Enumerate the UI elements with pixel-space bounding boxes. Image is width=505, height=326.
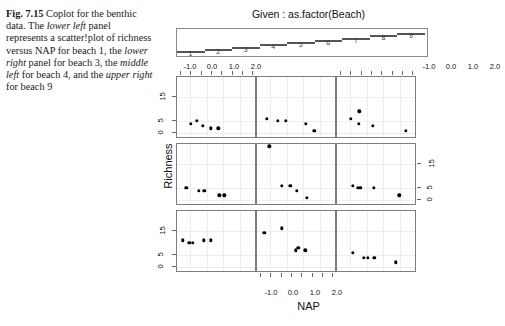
gridline-horizontal [257, 267, 335, 268]
gridline-vertical [270, 77, 271, 137]
data-point [394, 261, 397, 264]
gridline-vertical [240, 144, 241, 204]
scatter-panel[interactable] [176, 210, 256, 272]
given-conditioning-strip: 123456789 [176, 28, 428, 57]
data-point [184, 186, 187, 189]
gridline-horizontal [177, 133, 255, 134]
gridline-horizontal [177, 97, 255, 98]
gridline-vertical [303, 77, 304, 137]
data-point [404, 129, 407, 132]
x-tick-label: -1.0 [418, 62, 440, 71]
scatter-panel[interactable] [336, 143, 416, 205]
data-point [197, 189, 200, 192]
given-level-label: 2 [216, 48, 220, 55]
gridline-vertical [367, 77, 368, 137]
data-point [191, 241, 194, 244]
scatter-panel[interactable] [256, 76, 336, 138]
y-tick-label: 15 [158, 226, 167, 234]
data-point [280, 226, 283, 229]
y-tick-label: 0 [156, 131, 165, 135]
data-point [218, 194, 221, 197]
given-panel-title: Given : as.factor(Beach) [160, 8, 457, 20]
gridline-horizontal [257, 231, 335, 232]
caption-line-7b: for beach 4, and [19, 69, 88, 80]
data-point [195, 119, 198, 122]
x-tick-label: -1.0 [260, 288, 282, 297]
gridline-horizontal [257, 133, 335, 134]
caption-emph-upper-right: upper right [106, 69, 153, 80]
x-tick-label: 2.0 [245, 62, 267, 71]
x-tick-label: 2.0 [326, 288, 348, 297]
x-tick-label: 1.0 [304, 288, 326, 297]
y-tick-label: 15 [427, 159, 436, 167]
gridline-vertical [287, 144, 288, 204]
gridline-vertical [320, 144, 321, 204]
x-tick-label: 1.0 [462, 62, 484, 71]
scatter-panel[interactable] [176, 143, 256, 205]
caption-emph-right: right [6, 57, 26, 68]
x-axis-ticks-top [176, 71, 256, 75]
given-level-label: 9 [409, 32, 413, 39]
scatter-panel[interactable] [256, 210, 336, 272]
caption-emph-lower: lower [124, 45, 147, 56]
given-level-label: 8 [381, 34, 385, 41]
scatter-panel[interactable] [256, 143, 336, 205]
gridline-vertical [270, 144, 271, 204]
gridline-vertical [207, 77, 208, 137]
gridline-horizontal [337, 267, 415, 268]
gridline-vertical [270, 211, 271, 271]
x-tick-label: 0.0 [201, 62, 223, 71]
gridline-vertical [400, 77, 401, 137]
gridline-horizontal [337, 255, 415, 256]
x-axis-ticklabels-top-right: -1.00.01.02.0 [418, 62, 505, 71]
data-point [265, 117, 268, 120]
caption-emph-lower-left: lower left [47, 20, 86, 31]
data-point [305, 196, 308, 199]
data-point [351, 184, 354, 187]
scatter-panel[interactable] [336, 210, 416, 272]
gridline-vertical [240, 77, 241, 137]
gridline-vertical [287, 211, 288, 271]
data-point [209, 239, 212, 242]
y-tick-label: 5 [425, 185, 434, 189]
caption-line-8a: the [91, 69, 106, 80]
y-tick-label: 15 [158, 92, 167, 100]
gridline-vertical [383, 144, 384, 204]
gridline-horizontal [257, 200, 335, 201]
gridline-horizontal [337, 231, 415, 232]
figure-caption: Fig. 7.15 Coplot for the benthic data. T… [6, 8, 154, 93]
gridline-horizontal [337, 188, 415, 189]
gridline-vertical [207, 211, 208, 271]
gridline-horizontal [257, 97, 335, 98]
data-point [357, 122, 360, 125]
x-axis-ticks-top [336, 71, 416, 75]
given-level-label: 3 [244, 46, 248, 53]
scatter-panel[interactable] [176, 76, 256, 138]
gridline-vertical [303, 144, 304, 204]
data-point [295, 189, 298, 192]
gridline-horizontal [257, 164, 335, 165]
data-point [297, 246, 300, 249]
gridline-vertical [240, 211, 241, 271]
data-point [313, 129, 316, 132]
data-point [217, 127, 220, 130]
gridline-horizontal [337, 200, 415, 201]
data-point [276, 119, 279, 122]
gridline-vertical [383, 211, 384, 271]
scatter-panel[interactable] [336, 76, 416, 138]
data-point [280, 184, 283, 187]
data-point [358, 110, 361, 113]
gridline-vertical [367, 144, 368, 204]
gridline-vertical [223, 77, 224, 137]
gridline-vertical [350, 77, 351, 137]
x-tick-label: 1.0 [223, 62, 245, 71]
gridline-horizontal [337, 97, 415, 98]
gridline-vertical [320, 211, 321, 271]
gridline-vertical [320, 77, 321, 137]
x-axis-ticks-bottom [256, 273, 336, 277]
caption-line-5a: NAP for beach 1, the [35, 45, 124, 56]
data-point [181, 239, 184, 242]
data-point [263, 231, 266, 234]
data-point [359, 186, 362, 189]
y-tick-label: 0 [156, 265, 165, 269]
